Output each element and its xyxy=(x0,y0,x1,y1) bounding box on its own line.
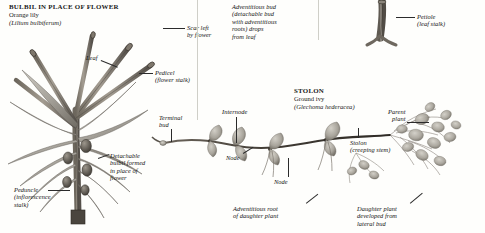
leader-peduncle xyxy=(48,190,70,191)
note-divider xyxy=(318,0,319,40)
stolon-panel-heading: STOLON Ground ivy (Glechoma hederacea) xyxy=(294,87,355,111)
panel-divider xyxy=(197,0,198,120)
label-node-left: Node xyxy=(226,154,240,161)
label-parent-plant: Parent plant xyxy=(388,108,405,123)
label-daughter-plant: Daughter plant developed from lateral bu… xyxy=(357,205,397,227)
stolon-panel-common-name: Ground ivy xyxy=(294,95,355,103)
stolon-panel-species: (Glechoma hederacea) xyxy=(294,103,355,111)
leader-parent-plant xyxy=(407,122,429,123)
leader-internode xyxy=(236,117,237,143)
label-stolon-creeping-stem: Stolon (creeping stem) xyxy=(350,139,390,154)
leader-detachable-bulbil xyxy=(98,154,109,159)
bulbil-panel-species: (Lilium bulbiferum) xyxy=(9,19,119,27)
label-terminal-bud: Terminal bud xyxy=(159,114,182,129)
label-scar-left-by-flower: Scar left by flower xyxy=(187,24,211,39)
leader-daughter-plant xyxy=(410,193,423,204)
leader-adventitious-root xyxy=(306,194,318,204)
label-adventitious-bud: Adventitious bud (detachable bud with ad… xyxy=(232,3,277,40)
petiole-illustration xyxy=(352,0,412,46)
label-petiole: Petiole (leaf stalk) xyxy=(417,13,445,28)
bulbil-panel-heading: BULBIL IN PLACE OF FLOWER Orange lily (L… xyxy=(9,3,119,27)
leader-petiole xyxy=(396,17,415,18)
leader-terminal-bud xyxy=(171,129,172,142)
leader-stolon xyxy=(358,128,359,138)
leader-node-left xyxy=(243,147,253,154)
leader-pedicel xyxy=(139,73,153,74)
ground-ivy-stolon-illustration xyxy=(150,95,485,215)
bulbil-panel-title: BULBIL IN PLACE OF FLOWER xyxy=(9,3,119,11)
label-pedicel: Pedicel (flower stalk) xyxy=(155,69,190,84)
leader-leaf xyxy=(101,60,118,67)
label-detachable-bulbil: Detachable bulbil formed in place of flo… xyxy=(110,152,145,182)
label-internode: Internode xyxy=(222,108,247,115)
leader-node-right xyxy=(288,158,289,177)
diagram-page: BULBIL IN PLACE OF FLOWER Orange lily (L… xyxy=(0,0,485,233)
label-leaf: Leaf xyxy=(86,54,98,61)
label-adventitious-root: Adventitious root of daughter plant xyxy=(233,205,278,220)
label-node-right: Node xyxy=(274,178,288,185)
bulbil-panel-common-name: Orange lily xyxy=(9,11,119,19)
label-peduncle: Peduncle (inflorescence stalk) xyxy=(14,186,51,208)
stolon-panel-title: STOLON xyxy=(294,87,355,95)
leader-scar xyxy=(163,28,185,29)
